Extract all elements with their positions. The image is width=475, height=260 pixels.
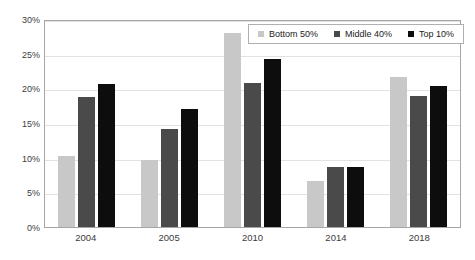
bar-2005-top-10[interactable] xyxy=(181,109,198,227)
x-tick-label: 2010 xyxy=(211,233,294,249)
bar-2014-bottom-50[interactable] xyxy=(307,181,324,227)
y-tick-label: 15% xyxy=(0,120,40,129)
bar-2010-bottom-50[interactable] xyxy=(224,33,241,227)
bar-2005-middle-40[interactable] xyxy=(161,129,178,227)
bar-2018-bottom-50[interactable] xyxy=(390,77,407,227)
bar-2018-middle-40[interactable] xyxy=(410,96,427,227)
y-tick-label: 25% xyxy=(0,50,40,59)
x-axis: 20042005201020142018 xyxy=(44,233,461,249)
y-tick-label: 0% xyxy=(0,224,40,233)
bar-chart: 0%5%10%15%20%25%30% 20042005201020142018… xyxy=(0,0,475,260)
y-axis: 0%5%10%15%20%25%30% xyxy=(0,20,40,228)
legend-swatch-icon xyxy=(334,31,340,37)
bar-group-2014 xyxy=(294,21,377,227)
legend-label: Top 10% xyxy=(419,30,454,39)
y-tick-label: 20% xyxy=(0,85,40,94)
bar-group-2010 xyxy=(211,21,294,227)
bar-2004-middle-40[interactable] xyxy=(78,97,95,227)
bar-groups xyxy=(45,21,460,227)
bar-2018-top-10[interactable] xyxy=(430,86,447,227)
legend-label: Bottom 50% xyxy=(269,30,318,39)
legend-label: Middle 40% xyxy=(345,30,392,39)
y-tick-label: 30% xyxy=(0,16,40,25)
bar-group-2004 xyxy=(45,21,128,227)
bar-2004-top-10[interactable] xyxy=(98,84,115,227)
bar-group-2018 xyxy=(377,21,460,227)
x-tick-label: 2005 xyxy=(127,233,210,249)
chart-legend: Bottom 50%Middle 40%Top 10% xyxy=(248,24,464,44)
y-tick-label: 10% xyxy=(0,154,40,163)
bar-2004-bottom-50[interactable] xyxy=(58,156,75,227)
bar-2010-middle-40[interactable] xyxy=(244,83,261,227)
bar-2005-bottom-50[interactable] xyxy=(141,160,158,227)
x-tick-label: 2014 xyxy=(294,233,377,249)
bar-group-2005 xyxy=(128,21,211,227)
legend-swatch-icon xyxy=(408,31,414,37)
legend-item-middle-40[interactable]: Middle 40% xyxy=(334,30,392,39)
bar-2010-top-10[interactable] xyxy=(264,59,281,227)
plot-area xyxy=(44,20,461,228)
legend-swatch-icon xyxy=(258,31,264,37)
bar-2014-top-10[interactable] xyxy=(347,167,364,227)
x-tick-label: 2018 xyxy=(378,233,461,249)
bar-2014-middle-40[interactable] xyxy=(327,167,344,227)
legend-item-bottom-50[interactable]: Bottom 50% xyxy=(258,30,318,39)
legend-item-top-10[interactable]: Top 10% xyxy=(408,30,454,39)
y-tick-label: 5% xyxy=(0,189,40,198)
x-tick-label: 2004 xyxy=(44,233,127,249)
